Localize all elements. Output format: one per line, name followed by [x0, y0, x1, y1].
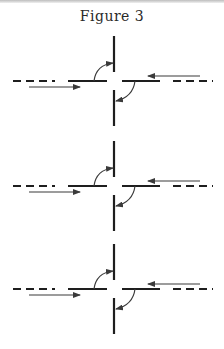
curved-arrow-up-icon — [94, 63, 113, 81]
diagram-panel-1 — [13, 36, 213, 126]
diagram-panel-2 — [13, 141, 213, 231]
curved-arrow-down-icon — [116, 81, 135, 101]
curved-arrow-down-icon — [116, 289, 135, 309]
diagram-panel-3 — [13, 244, 213, 334]
curved-arrow-up-icon — [94, 271, 113, 289]
figure-diagram — [0, 0, 224, 349]
curved-arrow-up-icon — [94, 168, 113, 186]
curved-arrow-down-icon — [116, 186, 135, 206]
